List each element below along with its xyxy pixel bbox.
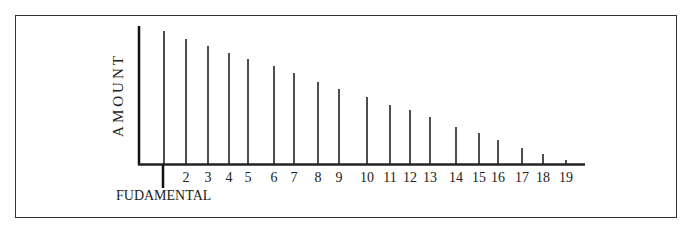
x-tick-label: 4 — [226, 170, 233, 185]
x-tick-label: 18 — [536, 170, 550, 185]
x-tick-label: 13 — [423, 170, 437, 185]
x-tick-labels: 2345678910111213141516171819 — [183, 170, 574, 185]
harmonic-spectrum-chart: 2345678910111213141516171819 AMOUNT FUDA… — [0, 0, 692, 237]
x-tick-label: 7 — [291, 170, 298, 185]
x-tick-label: 16 — [491, 170, 505, 185]
harmonic-bars — [164, 31, 566, 164]
x-tick-label: 12 — [403, 170, 417, 185]
x-tick-label: 10 — [360, 170, 374, 185]
x-tick-label: 14 — [449, 170, 463, 185]
x-tick-label: 19 — [559, 170, 573, 185]
x-tick-label: 6 — [271, 170, 278, 185]
x-tick-label: 8 — [315, 170, 322, 185]
x-tick-label: 9 — [336, 170, 343, 185]
fundamental-label: FUDAMENTAL — [116, 188, 211, 203]
x-tick-label: 17 — [515, 170, 529, 185]
x-tick-label: 11 — [383, 170, 396, 185]
x-tick-label: 15 — [472, 170, 486, 185]
y-axis-title: AMOUNT — [110, 53, 126, 137]
x-tick-label: 3 — [205, 170, 212, 185]
x-tick-label: 2 — [183, 170, 190, 185]
x-tick-label: 5 — [245, 170, 252, 185]
